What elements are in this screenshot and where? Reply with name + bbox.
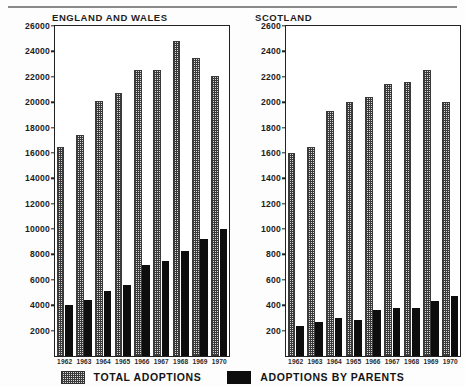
- y-axis-tick-mark-scotland: [282, 101, 286, 102]
- x-axis-label-1967-scotland: 1967: [385, 358, 400, 365]
- bar-adoptions-by-parents-1962-scotland: [296, 326, 304, 356]
- y-axis-tick-mark-england-and-wales: [51, 228, 55, 229]
- legend-swatch-total-adoptions: [61, 371, 85, 384]
- y-axis-tick-mark-scotland: [282, 203, 286, 204]
- chart-panel-england-and-wales: ENGLAND AND WALES 1962196319641965196619…: [0, 0, 236, 365]
- bar-adoptions-by-parents-1965-scotland: [354, 320, 362, 356]
- bar-adoptions-by-parents-1963-england-and-wales: [84, 300, 92, 356]
- x-axis-label-1965-england-and-wales: 1965: [115, 358, 130, 365]
- y-axis-tick-mark-scotland: [282, 152, 286, 153]
- legend-label-adoptions-by-parents: ADOPTIONS BY PARENTS: [260, 371, 404, 383]
- bar-adoptions-by-parents-1966-scotland: [373, 310, 381, 356]
- bar-total-adoptions-1968-scotland: [404, 82, 412, 356]
- y-axis-tick-mark-england-and-wales: [51, 76, 55, 77]
- y-axis-tick-mark-scotland: [282, 279, 286, 280]
- x-axis-label-1967-england-and-wales: 1967: [154, 358, 169, 365]
- bar-total-adoptions-1965-scotland: [346, 102, 354, 356]
- y-axis-tick-mark-england-and-wales: [51, 152, 55, 153]
- bar-adoptions-by-parents-1968-england-and-wales: [181, 251, 189, 356]
- bar-total-adoptions-1970-scotland: [442, 102, 450, 356]
- x-axis-label-1968-scotland: 1968: [404, 358, 419, 365]
- y-axis-tick-mark-scotland: [282, 178, 286, 179]
- bar-total-adoptions-1966-scotland: [365, 97, 373, 356]
- bar-adoptions-by-parents-1964-scotland: [335, 318, 343, 356]
- y-axis-tick-mark-scotland: [282, 127, 286, 128]
- chart-title-england-and-wales: ENGLAND AND WALES: [52, 12, 168, 23]
- y-axis-tick-mark-england-and-wales: [51, 330, 55, 331]
- bar-adoptions-by-parents-1970-scotland: [451, 296, 459, 356]
- y-axis-tick-mark-scotland: [282, 76, 286, 77]
- bar-adoptions-by-parents-1962-england-and-wales: [65, 305, 73, 356]
- bar-total-adoptions-1964-scotland: [326, 111, 334, 356]
- y-axis-tick-mark-scotland: [282, 254, 286, 255]
- y-axis-tick-mark-scotland: [282, 25, 286, 26]
- bar-total-adoptions-1962-scotland: [288, 153, 296, 356]
- x-axis-label-1969-scotland: 1969: [423, 358, 438, 365]
- y-axis-tick-mark-england-and-wales: [51, 203, 55, 204]
- x-axis-label-1964-scotland: 1964: [327, 358, 342, 365]
- x-axis-label-1969-england-and-wales: 1969: [192, 358, 207, 365]
- bar-total-adoptions-1963-scotland: [307, 147, 315, 356]
- x-axis-label-1963-england-and-wales: 1963: [76, 358, 91, 365]
- x-axis-label-1966-england-and-wales: 1966: [134, 358, 149, 365]
- y-axis-tick-mark-england-and-wales: [51, 51, 55, 52]
- bar-adoptions-by-parents-1965-england-and-wales: [123, 285, 131, 356]
- legend-item-total-adoptions: TOTAL ADOPTIONS: [61, 371, 202, 384]
- bar-total-adoptions-1964-england-and-wales: [95, 101, 103, 356]
- y-axis-tick-mark-scotland: [282, 305, 286, 306]
- bar-total-adoptions-1969-england-and-wales: [192, 58, 200, 356]
- x-axis-label-1966-scotland: 1966: [365, 358, 380, 365]
- y-axis-tick-mark-scotland: [282, 228, 286, 229]
- legend-label-total-adoptions: TOTAL ADOPTIONS: [94, 371, 202, 383]
- bar-total-adoptions-1962-england-and-wales: [57, 147, 65, 356]
- x-axis-label-1964-england-and-wales: 1964: [96, 358, 111, 365]
- bar-total-adoptions-1963-england-and-wales: [76, 135, 84, 356]
- chart-panel-scotland: SCOTLAND 1962196319641965196619671968196…: [236, 0, 465, 365]
- y-axis-tick-mark-england-and-wales: [51, 279, 55, 280]
- y-axis-tick-mark-england-and-wales: [51, 254, 55, 255]
- bar-total-adoptions-1970-england-and-wales: [211, 76, 219, 357]
- bar-adoptions-by-parents-1970-england-and-wales: [220, 229, 228, 356]
- bar-total-adoptions-1967-england-and-wales: [153, 70, 161, 356]
- y-axis-tick-mark-scotland: [282, 51, 286, 52]
- bar-adoptions-by-parents-1967-england-and-wales: [162, 261, 170, 356]
- x-axis-label-1962-england-and-wales: 1962: [57, 358, 72, 365]
- y-axis-tick-mark-england-and-wales: [51, 305, 55, 306]
- bar-total-adoptions-1968-england-and-wales: [173, 41, 181, 356]
- x-axis-label-1970-england-and-wales: 1970: [212, 358, 227, 365]
- bar-adoptions-by-parents-1966-england-and-wales: [142, 265, 150, 356]
- x-axis-label-1970-scotland: 1970: [443, 358, 458, 365]
- y-axis-tick-mark-england-and-wales: [51, 178, 55, 179]
- bar-adoptions-by-parents-1969-scotland: [431, 301, 439, 356]
- plot-area-england-and-wales: 196219631964196519661967196819691970 200…: [54, 25, 230, 357]
- bar-total-adoptions-1967-scotland: [384, 84, 392, 356]
- plot-area-scotland: 196219631964196519661967196819691970 200…: [285, 25, 461, 357]
- x-axis-label-1962-scotland: 1962: [288, 358, 303, 365]
- bar-group-england-and-wales: [55, 26, 229, 356]
- bar-adoptions-by-parents-1967-scotland: [393, 308, 401, 356]
- bar-adoptions-by-parents-1969-england-and-wales: [200, 239, 208, 356]
- bar-total-adoptions-1965-england-and-wales: [115, 93, 123, 356]
- bar-adoptions-by-parents-1963-scotland: [315, 322, 323, 356]
- bar-total-adoptions-1966-england-and-wales: [134, 70, 142, 356]
- legend-item-adoptions-by-parents: ADOPTIONS BY PARENTS: [227, 371, 404, 384]
- bar-adoptions-by-parents-1964-england-and-wales: [104, 291, 112, 356]
- y-axis-tick-mark-england-and-wales: [51, 127, 55, 128]
- bar-adoptions-by-parents-1968-scotland: [412, 308, 420, 356]
- x-axis-label-1963-scotland: 1963: [307, 358, 322, 365]
- bar-total-adoptions-1969-scotland: [423, 70, 431, 356]
- y-axis-tick-mark-england-and-wales: [51, 25, 55, 26]
- legend-swatch-adoptions-by-parents: [227, 371, 251, 384]
- x-axis-label-1965-scotland: 1965: [346, 358, 361, 365]
- bar-group-scotland: [286, 26, 460, 356]
- y-axis-tick-mark-england-and-wales: [51, 101, 55, 102]
- chart-page: ENGLAND AND WALES 1962196319641965196619…: [0, 0, 465, 387]
- chart-legend: TOTAL ADOPTIONS ADOPTIONS BY PARENTS: [0, 367, 465, 387]
- y-axis-tick-mark-scotland: [282, 330, 286, 331]
- x-axis-label-1968-england-and-wales: 1968: [173, 358, 188, 365]
